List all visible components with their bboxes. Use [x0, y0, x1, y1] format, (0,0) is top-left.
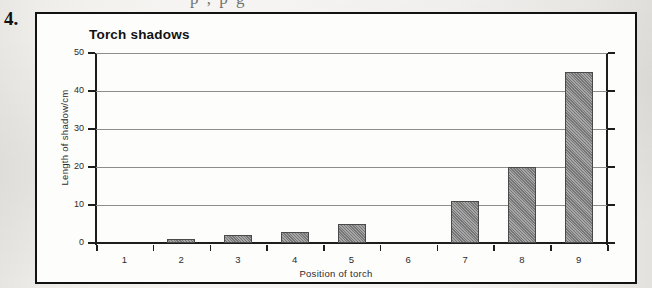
x-axis-category-label: 4 — [275, 254, 315, 265]
bar — [281, 232, 309, 243]
x-axis-category-label: 8 — [502, 254, 542, 265]
x-axis-tick — [437, 245, 439, 251]
y-axis-tick — [608, 128, 615, 130]
x-axis-tick — [607, 245, 609, 251]
cut-off-text-above: p , p g — [0, 0, 652, 10]
bar — [338, 224, 366, 243]
plot-area — [96, 53, 607, 243]
y-axis-tick-label: 50 — [58, 47, 84, 57]
y-axis-tick-label: 30 — [58, 123, 84, 133]
figure-frame: Torch shadows Length of shadow/cm 010203… — [35, 12, 637, 284]
bar — [167, 239, 195, 243]
x-axis-title: Position of torch — [37, 268, 635, 279]
bar — [565, 72, 593, 243]
bar — [451, 201, 479, 243]
bar — [508, 167, 536, 243]
y-axis-tick — [88, 128, 95, 130]
y-axis-tick-label: 10 — [58, 199, 84, 209]
x-axis-category-label: 3 — [218, 254, 258, 265]
y-axis-tick — [608, 242, 615, 244]
x-axis-tick — [550, 245, 552, 251]
y-axis-tick — [88, 52, 95, 54]
y-axis-tick — [608, 204, 615, 206]
x-axis-category-label: 7 — [445, 254, 485, 265]
x-axis-category-label: 9 — [559, 254, 599, 265]
x-axis-category-label: 5 — [332, 254, 372, 265]
x-axis-tick — [493, 245, 495, 251]
y-axis-tick — [88, 242, 95, 244]
bar-chart: Torch shadows Length of shadow/cm 010203… — [37, 14, 635, 282]
x-axis-tick — [96, 245, 98, 251]
x-axis-category-label: 6 — [388, 254, 428, 265]
y-axis-tick — [88, 204, 95, 206]
x-axis-category-label: 1 — [104, 254, 144, 265]
y-axis-tick — [608, 52, 615, 54]
y-axis-tick — [88, 90, 95, 92]
chart-title: Torch shadows — [89, 27, 190, 42]
x-axis-tick — [266, 245, 268, 251]
x-axis-tick — [323, 245, 325, 251]
x-axis-tick — [380, 245, 382, 251]
question-number: 4. — [4, 8, 18, 30]
x-axis-tick — [153, 245, 155, 251]
y-axis-tick — [608, 90, 615, 92]
y-axis-tick — [88, 166, 95, 168]
cut-off-text-line: p , p g — [190, 0, 247, 8]
x-axis-tick — [210, 245, 212, 251]
y-axis-tick — [608, 166, 615, 168]
x-axis-category-label: 2 — [161, 254, 201, 265]
bar — [224, 235, 252, 243]
y-axis-tick-label: 40 — [58, 85, 84, 95]
y-axis-tick-label: 20 — [58, 161, 84, 171]
y-axis-tick-label: 0 — [58, 237, 84, 247]
